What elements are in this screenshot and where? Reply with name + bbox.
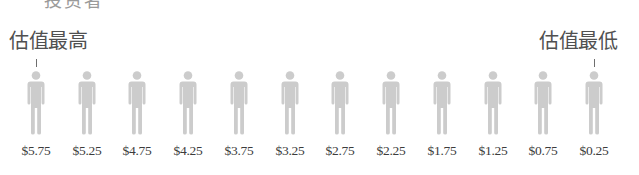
price-label: $5.75 <box>11 143 61 159</box>
person-icon <box>128 71 146 135</box>
person-icon <box>27 71 45 135</box>
price-label: $3.25 <box>265 143 315 159</box>
person-icon <box>484 71 502 135</box>
price-label: $1.75 <box>417 143 467 159</box>
person-icon <box>534 71 552 135</box>
person-icon <box>331 71 349 135</box>
person-icon <box>585 71 603 135</box>
price-label: $3.75 <box>214 143 264 159</box>
price-label: $2.25 <box>366 143 416 159</box>
person-icon <box>433 71 451 135</box>
price-label: $1.25 <box>468 143 518 159</box>
investor-pictogram-row: $5.75$5.25$4.75$4.25$3.75$3.25$2.75$2.25… <box>0 0 639 175</box>
price-label: $4.25 <box>163 143 213 159</box>
price-label: $0.75 <box>518 143 568 159</box>
person-icon <box>78 71 96 135</box>
price-label: $2.75 <box>315 143 365 159</box>
person-icon <box>179 71 197 135</box>
person-icon <box>281 71 299 135</box>
person-icon <box>230 71 248 135</box>
price-label: $4.75 <box>112 143 162 159</box>
person-icon <box>382 71 400 135</box>
price-label: $0.25 <box>569 143 619 159</box>
price-label: $5.25 <box>62 143 112 159</box>
